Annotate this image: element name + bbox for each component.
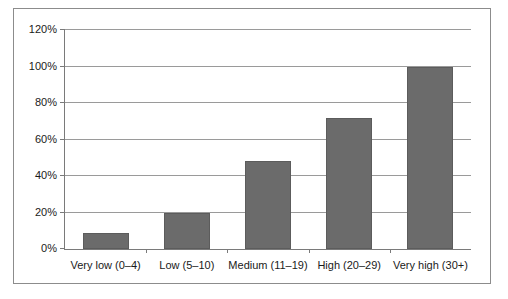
xtick-label-very-high: Very high (30+)	[393, 259, 468, 271]
plot-area: 120% 100% 80% 60% 40% 20% 0%	[64, 30, 471, 250]
xtick-label-very-low: Very low (0–4)	[70, 259, 140, 271]
chart-frame: 120% 100% 80% 60% 40% 20% 0%	[13, 8, 491, 284]
bar-very-high[interactable]	[407, 67, 453, 250]
xtick-label-medium: Medium (11–19)	[228, 259, 307, 271]
ytick-label-40: 40%	[35, 169, 57, 181]
bar-high[interactable]	[326, 118, 372, 249]
bar-very-low[interactable]	[83, 233, 129, 249]
xtick-label-high: High (20–29)	[317, 259, 381, 271]
bar-slot-very-low: Very low (0–4)	[65, 30, 146, 249]
bar-low[interactable]	[164, 213, 210, 249]
bar-slot-very-high: Very high (30+)	[390, 30, 471, 249]
category-separator	[227, 249, 228, 253]
bar-slot-low: Low (5–10)	[146, 30, 227, 249]
ytick-label-0: 0%	[41, 242, 57, 254]
category-separator	[146, 249, 147, 253]
ytick-label-120: 120%	[29, 23, 57, 35]
ytick-label-80: 80%	[35, 96, 57, 108]
bar-slot-medium: Medium (11–19)	[227, 30, 308, 249]
bar-series: Very low (0–4) Low (5–10) Medium (11–19)…	[65, 30, 471, 249]
bar-medium[interactable]	[245, 161, 291, 249]
ytick-label-60: 60%	[35, 133, 57, 145]
category-separator	[390, 249, 391, 253]
xtick-label-low: Low (5–10)	[159, 259, 214, 271]
bar-slot-high: High (20–29)	[309, 30, 390, 249]
ytick-label-20: 20%	[35, 206, 57, 218]
category-separator	[309, 249, 310, 253]
ytick-label-100: 100%	[29, 60, 57, 72]
